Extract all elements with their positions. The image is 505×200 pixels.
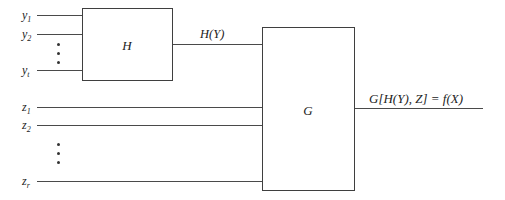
input-wire-y1 — [37, 15, 82, 16]
input-label-y2: y2 — [22, 28, 31, 43]
input-label-y1: y1 — [22, 9, 31, 24]
block-g-label: G — [303, 104, 312, 117]
ellipsis-dot-z — [57, 143, 60, 146]
output-label: G[H(Y), Z] = f(X) — [369, 92, 463, 105]
input-wire-y2 — [37, 34, 82, 35]
input-wire-zr — [37, 181, 262, 182]
intermediate-label: H(Y) — [200, 28, 224, 41]
input-label-yt: yt — [22, 64, 30, 79]
input-label-zr: zr — [22, 175, 30, 190]
input-label-z1: z1 — [22, 101, 31, 116]
ellipsis-dot-y — [57, 61, 60, 64]
ellipsis-dot-z — [57, 161, 60, 164]
input-wire-z1 — [37, 107, 262, 108]
input-wire-yt — [37, 70, 82, 71]
ellipsis-dot-z — [57, 152, 60, 155]
ellipsis-dot-y — [57, 52, 60, 55]
decomposition-diagram: y1 y2 yt H H(Y) z1 z2 zr G G[H(Y), Z] = … — [0, 0, 505, 200]
ellipsis-dot-y — [57, 43, 60, 46]
output-wire — [355, 108, 483, 109]
intermediate-wire — [173, 44, 262, 45]
input-wire-z2 — [37, 125, 262, 126]
block-h-label: H — [122, 39, 131, 52]
input-label-z2: z2 — [22, 119, 31, 134]
